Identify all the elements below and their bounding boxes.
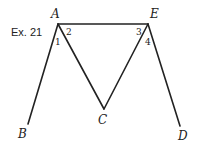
- angle-label-2: 2: [66, 27, 72, 37]
- exercise-label: Ex. 21: [11, 26, 42, 38]
- point-label-b: B: [17, 127, 27, 141]
- segment-ed: [148, 24, 180, 126]
- point-label-c: C: [98, 113, 107, 127]
- geometry-diagram: Ex. 21 A E B C D 1 2 3 4: [0, 0, 198, 144]
- point-label-d: D: [177, 129, 188, 143]
- point-label-a: A: [50, 7, 60, 21]
- angle-label-4: 4: [145, 37, 151, 47]
- segment-ac: [58, 24, 104, 109]
- angle-label-3: 3: [136, 27, 142, 37]
- angle-label-1: 1: [55, 37, 61, 47]
- segment-ab: [28, 24, 58, 124]
- point-label-e: E: [149, 7, 159, 21]
